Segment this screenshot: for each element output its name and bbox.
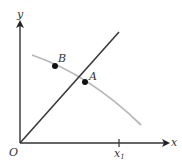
origin-label: O <box>9 146 18 159</box>
x-axis-label: x <box>171 136 178 149</box>
curve <box>32 55 141 125</box>
y-axis-label: y <box>16 8 24 21</box>
point-b-label: B <box>57 52 66 65</box>
point-a <box>82 79 88 85</box>
point-a-label: A <box>88 70 97 83</box>
diagram-canvas: y x O x1 B A <box>0 0 182 164</box>
x1-tick-label: x1 <box>114 147 125 161</box>
x1-label-subscript: 1 <box>120 153 124 161</box>
straight-line <box>20 32 119 143</box>
